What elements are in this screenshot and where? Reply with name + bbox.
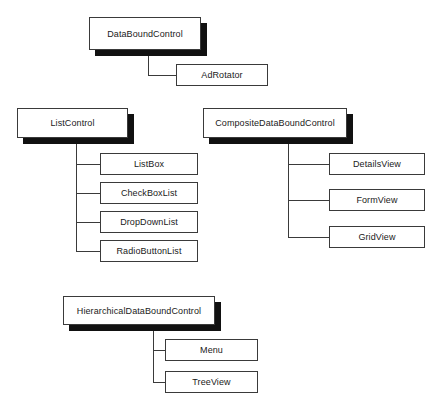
connector-detailsview-horizontal [288,164,329,165]
connector-listbox-horizontal [76,164,100,165]
connector-databoundcontrol-vertical [148,56,149,75]
node-detailsview[interactable]: DetailsView [329,153,425,175]
connector-menu-horizontal [153,350,165,351]
node-compositedataboundcontrol[interactable]: CompositeDataBoundControl [203,108,347,138]
connector-dropdownlist-horizontal [76,222,100,223]
node-databoundcontrol[interactable]: DataBoundControl [89,17,201,50]
node-adrotator[interactable]: AdRotator [176,64,268,86]
node-treeview[interactable]: TreeView [165,371,258,393]
node-listcontrol[interactable]: ListControl [17,108,128,138]
node-dropdownlist[interactable]: DropDownList [100,211,198,233]
node-gridview[interactable]: GridView [329,226,425,248]
connector-treeview-horizontal [153,382,165,383]
connector-radiobuttonlist-horizontal [76,251,100,252]
connector-adrotator-horizontal [148,75,176,76]
connector-formview-horizontal [288,200,329,201]
class-hierarchy-diagram: DataBoundControl AdRotator ListControl L… [0,0,435,413]
connector-checkboxlist-horizontal [76,193,100,194]
connector-gridview-horizontal [288,237,329,238]
node-listbox[interactable]: ListBox [100,153,198,175]
node-hierarchicaldataboundcontrol[interactable]: HierarchicalDataBoundControl [63,296,215,325]
node-formview[interactable]: FormView [329,189,425,211]
connector-listcontrol-spine [76,144,77,251]
node-menu[interactable]: Menu [165,339,258,361]
node-radiobuttonlist[interactable]: RadioButtonList [100,240,198,262]
connector-composite-spine [288,144,289,237]
node-checkboxlist[interactable]: CheckBoxList [100,182,198,204]
connector-hierarchical-spine [153,331,154,382]
